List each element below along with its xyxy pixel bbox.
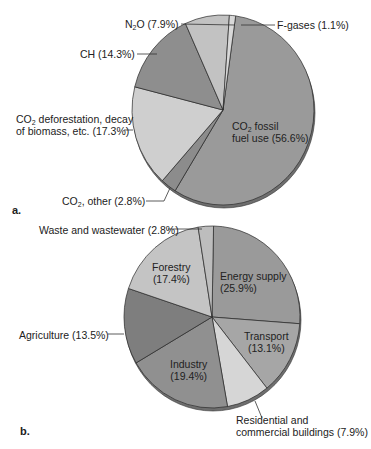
label-fossil: CO2 fossilfuel use (56.6%) (232, 120, 308, 144)
label-n2o: N2O (7.9%) (125, 18, 179, 30)
label-deforestation: CO2 deforestation, decayof biomass, etc.… (16, 113, 133, 137)
leader-co2-other (146, 188, 170, 201)
panel-label-a: a. (12, 204, 21, 216)
label-ch: CH (14.3%) (80, 48, 135, 60)
label-waste: Waste and wastewater (2.8%) (39, 224, 179, 236)
label-agriculture: Agriculture (13.5%) (19, 329, 109, 341)
label-industry: Industry(19.4%) (170, 358, 207, 382)
label-residential: Residential andcommercial buildings (7.9… (236, 414, 368, 438)
pie-chart-b (124, 226, 301, 411)
label-co2-other: CO2, other (2.8%) (62, 195, 145, 207)
label-forestry: Forestry(17.4%) (152, 261, 191, 285)
label-transport: Transport(13.1%) (244, 330, 289, 354)
pie-chart-a (132, 15, 315, 208)
label-energy: Energy supply(25.9%) (220, 270, 287, 294)
label-fgases: F-gases (1.1%) (277, 19, 349, 31)
panel-label-b: b. (20, 425, 30, 437)
